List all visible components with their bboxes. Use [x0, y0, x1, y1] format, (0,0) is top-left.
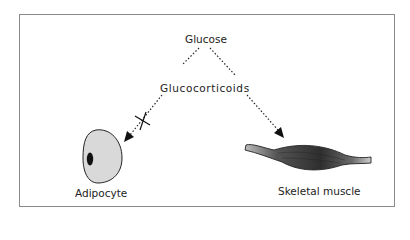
- label-glucose: Glucose: [185, 33, 227, 45]
- arrowhead-icon: [274, 127, 284, 138]
- label-skeletal-muscle: Skeletal muscle: [278, 185, 361, 197]
- adipocyte-icon: [83, 130, 122, 183]
- label-adipocyte: Adipocyte: [75, 187, 127, 199]
- arrowhead-icon: [124, 131, 134, 142]
- block-cross-icon: [135, 112, 150, 130]
- nucleus-icon: [87, 153, 93, 166]
- skeletal-muscle-icon: [245, 145, 371, 170]
- arrow-to-adipocyte: [124, 48, 199, 142]
- label-glucocorticoids: Glucocorticoids: [160, 82, 250, 94]
